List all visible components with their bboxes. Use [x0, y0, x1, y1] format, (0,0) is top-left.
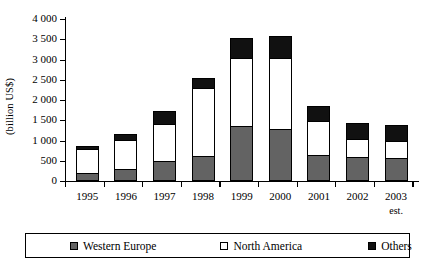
bar-segment-western-europe-2003: [385, 158, 408, 181]
x-axis-tick: [104, 182, 105, 187]
legend-label-north-america: North America: [233, 240, 302, 252]
bar-2000: [269, 0, 292, 181]
y-axis-tick: [60, 161, 65, 162]
north-america-swatch: [220, 242, 228, 250]
bar-segment-north-america-2003: [385, 141, 408, 159]
x-axis-tick: [374, 182, 375, 187]
bar-segment-others-1997: [153, 111, 176, 125]
bar-segment-western-europe-2001: [307, 155, 330, 181]
bar-segment-others-2003: [385, 125, 408, 142]
bar-segment-north-america-1997: [153, 124, 176, 162]
y-axis-tick: [60, 60, 65, 61]
x-axis-tick: [181, 182, 182, 187]
legend-item-others: Others: [368, 240, 412, 252]
bar-segment-north-america-1996: [114, 140, 137, 170]
chart-legend: Western Europe North America Others: [25, 233, 410, 258]
x-axis-tick: [335, 182, 336, 187]
bar-segment-western-europe-1998: [192, 156, 215, 181]
y-axis-tick: [60, 39, 65, 40]
stacked-bar-chart-figure: (billion US$) 4 0003 5003 0002 5002 0001…: [0, 0, 435, 268]
others-swatch: [368, 242, 376, 250]
legend-label-western-europe: Western Europe: [83, 240, 156, 252]
bar-segment-western-europe-1996: [114, 169, 137, 181]
bar-2002: [346, 0, 369, 181]
bars-layer: [0, 0, 435, 181]
bar-2001: [307, 0, 330, 181]
legend-label-others: Others: [381, 240, 412, 252]
y-axis-tick: [60, 100, 65, 101]
bar-segment-others-1999: [230, 38, 253, 59]
x-axis-tick: [412, 182, 413, 187]
x-axis-tick: [219, 182, 220, 187]
bar-segment-north-america-1999: [230, 58, 253, 127]
bar-2003: [385, 0, 408, 181]
bar-segment-north-america-1998: [192, 88, 215, 156]
bar-segment-others-2002: [346, 123, 369, 140]
bar-segment-north-america-2002: [346, 139, 369, 158]
bar-segment-western-europe-1995: [76, 173, 99, 181]
western-europe-swatch: [70, 242, 78, 250]
y-axis-tick: [60, 120, 65, 121]
bar-1999: [230, 0, 253, 181]
bar-segment-western-europe-1999: [230, 126, 253, 181]
y-axis-tick: [60, 80, 65, 81]
bar-segment-north-america-1995: [76, 149, 99, 174]
legend-item-western-europe: Western Europe: [70, 240, 156, 252]
x-tick-sublabel-2003: est.: [373, 205, 419, 216]
bar-1997: [153, 0, 176, 181]
x-axis-tick: [258, 182, 259, 187]
y-axis-tick: [60, 19, 65, 20]
bar-segment-others-2001: [307, 106, 330, 122]
bar-segment-western-europe-1997: [153, 161, 176, 181]
bar-segment-others-2000: [269, 36, 292, 59]
bar-segment-western-europe-2002: [346, 157, 369, 181]
y-axis-tick: [60, 141, 65, 142]
bar-1995: [76, 0, 99, 181]
x-axis-line: [65, 181, 419, 182]
legend-item-north-america: North America: [220, 240, 302, 252]
bar-segment-north-america-2001: [307, 121, 330, 156]
plot-area: (billion US$) 4 0003 5003 0002 5002 0001…: [0, 0, 435, 222]
bar-1996: [114, 0, 137, 181]
bar-segment-north-america-2000: [269, 58, 292, 130]
bar-segment-western-europe-2000: [269, 129, 292, 181]
x-tick-label-2003: 2003: [373, 190, 419, 202]
x-axis-tick: [142, 182, 143, 187]
x-axis-tick: [65, 182, 66, 187]
bar-1998: [192, 0, 215, 181]
x-axis-tick: [297, 182, 298, 187]
